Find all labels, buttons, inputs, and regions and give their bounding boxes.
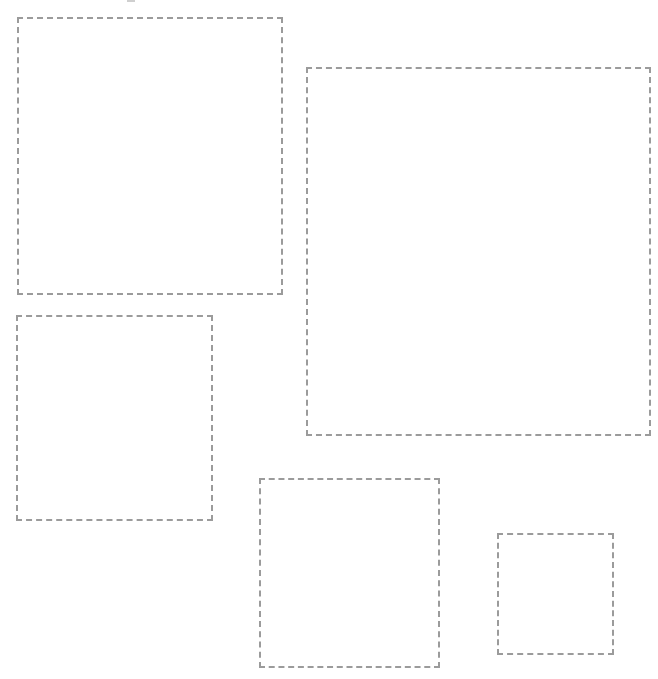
region-2[interactable] bbox=[306, 67, 651, 436]
region-3[interactable] bbox=[16, 315, 213, 521]
placeholder-canvas bbox=[0, 0, 658, 679]
region-4[interactable] bbox=[259, 478, 440, 668]
region-5[interactable] bbox=[497, 533, 614, 655]
region-1[interactable] bbox=[17, 17, 283, 295]
top-edge-dash-artifact bbox=[127, 0, 135, 2]
